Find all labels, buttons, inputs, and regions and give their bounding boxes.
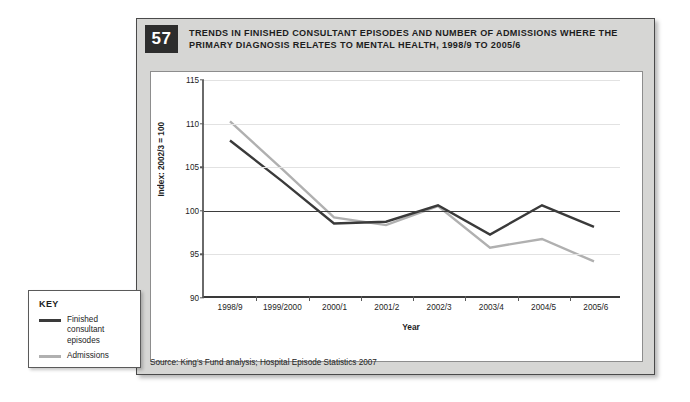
chart-legend: KEY Finished consultant episodes Admissi… <box>28 290 141 368</box>
y-tick-label: 90 <box>190 294 199 303</box>
y-tick-label: 110 <box>186 119 199 128</box>
x-tick-mark <box>413 296 414 301</box>
gridline <box>204 124 620 125</box>
y-tick-label: 100 <box>185 206 199 215</box>
legend-item-finished-consultant-episodes: Finished consultant episodes <box>39 315 132 346</box>
y-tick-mark <box>200 254 204 255</box>
series-lines <box>204 80 620 296</box>
x-tick-label: 2001/2 <box>374 303 399 312</box>
y-tick-mark <box>200 123 204 124</box>
x-tick-label: 2000/1 <box>322 303 347 312</box>
x-tick-label: 2002/3 <box>427 303 452 312</box>
baseline-gridline <box>204 211 620 212</box>
legend-heading: KEY <box>39 299 132 309</box>
x-tick-label: 1998/9 <box>218 303 243 312</box>
source-note: Source: King's Fund analysis; Hospital E… <box>150 354 643 368</box>
x-tick-mark <box>518 296 519 301</box>
y-tick-mark <box>200 79 204 80</box>
x-tick-label: 1999/2000 <box>263 303 302 312</box>
x-tick-mark <box>256 296 257 301</box>
y-tick-label: 95 <box>190 250 199 259</box>
y-tick-mark <box>200 297 204 298</box>
figure-number-badge: 57 <box>145 25 178 53</box>
gridline <box>204 80 620 81</box>
gridline <box>204 167 620 168</box>
plot-card: Index: 2002/3 = 100 90951001051101151998… <box>150 71 643 362</box>
x-tick-mark <box>309 296 310 301</box>
gridline <box>204 254 620 255</box>
x-tick-mark <box>570 296 571 301</box>
plot-area: 90951001051101151998/91999/20002000/1200… <box>202 80 620 298</box>
figure-header: 57 TRENDS IN FINISHED CONSULTANT EPISODE… <box>137 19 654 66</box>
figure-title: TRENDS IN FINISHED CONSULTANT EPISODES A… <box>189 27 642 52</box>
y-tick-mark <box>200 166 204 167</box>
x-tick-label: 2004/5 <box>531 303 556 312</box>
x-tick-mark <box>465 296 466 301</box>
x-tick-mark <box>361 296 362 301</box>
legend-swatch-dark <box>39 319 61 322</box>
x-tick-label: 2005/6 <box>583 303 608 312</box>
y-tick-label: 115 <box>186 76 199 85</box>
legend-label-finished-consultant-episodes: Finished consultant episodes <box>67 315 132 346</box>
series-line-finished-consultant-episodes <box>230 140 594 234</box>
legend-label-admissions: Admissions <box>67 351 109 361</box>
x-tick-label: 2003/4 <box>479 303 504 312</box>
figure-panel: 57 TRENDS IN FINISHED CONSULTANT EPISODE… <box>136 18 655 375</box>
series-line-admissions <box>230 121 594 261</box>
legend-item-admissions: Admissions <box>39 351 132 361</box>
x-axis-title: Year <box>202 322 620 332</box>
legend-swatch-light <box>39 355 61 358</box>
y-tick-label: 105 <box>185 163 199 172</box>
y-tick-mark <box>200 210 204 211</box>
y-axis-title: Index: 2002/3 = 100 <box>157 122 169 196</box>
